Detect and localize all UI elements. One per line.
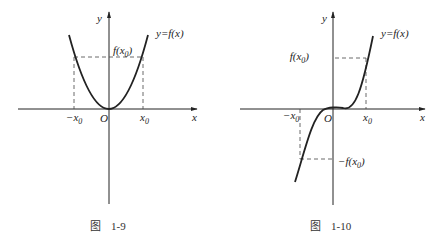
origin-label: O xyxy=(100,112,108,124)
neg-x0-label: −x0 xyxy=(283,109,299,124)
y-axis-label: y xyxy=(96,12,102,24)
fx0-label: f(x0) xyxy=(113,44,133,59)
fx0-label: f(x0) xyxy=(290,50,310,65)
figure-1-10: y x O y=f(x) f(x0) −f(x0) −x0 x0 图1-10 xyxy=(240,12,425,232)
figure-1-9: y x O y=f(x) f(x0) −x0 x0 图1-9 xyxy=(18,12,197,232)
curve-label: y=f(x) xyxy=(380,27,409,40)
figures-canvas: y x O y=f(x) f(x0) −x0 x0 图1-9 y x O y=f… xyxy=(0,0,438,244)
figure-caption: 图1-10 xyxy=(310,220,352,232)
neg-fx0-label: −f(x0) xyxy=(338,155,365,170)
x-axis-label: x xyxy=(419,111,425,123)
x0-label: x0 xyxy=(139,111,149,126)
y-axis-label: y xyxy=(321,12,327,24)
origin-label: O xyxy=(324,112,332,124)
neg-x0-label: −x0 xyxy=(66,111,82,126)
curve-label: y=f(x) xyxy=(155,27,184,40)
x0-label: x0 xyxy=(362,111,372,126)
figure-caption: 图1-9 xyxy=(90,220,126,232)
x-axis-label: x xyxy=(191,111,197,123)
